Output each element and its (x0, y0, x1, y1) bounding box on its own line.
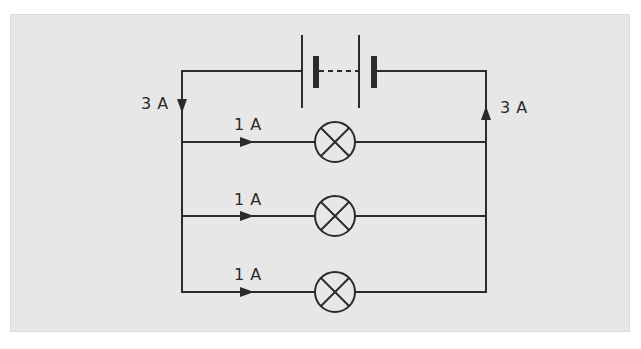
cell-2-negative-plate (371, 56, 377, 88)
branch-3-arrow-icon (240, 287, 254, 297)
branch-2-arrow-icon (240, 211, 254, 221)
cell-1-negative-plate (313, 56, 319, 88)
lamp-1-icon (315, 122, 355, 162)
circuit-diagram (0, 0, 641, 349)
left-down-arrow-icon (177, 99, 187, 113)
lamp-2-icon (315, 196, 355, 236)
right-up-arrow-icon (481, 106, 491, 120)
branch-2-current-label: 1 A (234, 192, 262, 208)
branch-1-arrow-icon (240, 137, 254, 147)
branch-3-current-label: 1 A (234, 267, 262, 283)
right-current-label: 3 A (500, 100, 528, 116)
lamp-3-icon (315, 272, 355, 312)
battery-icon (302, 35, 377, 108)
left-current-label: 3 A (141, 96, 169, 112)
branch-1-current-label: 1 A (234, 117, 262, 133)
